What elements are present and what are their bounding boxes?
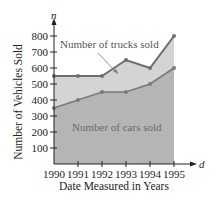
x-tick-label: 1990 [43, 168, 66, 180]
y-tick-label: 800 [32, 30, 49, 42]
x-tick-label: 1994 [139, 168, 162, 180]
data-point [76, 74, 80, 78]
x-tick-label: 1992 [91, 168, 113, 180]
data-point [172, 34, 176, 38]
data-point [148, 82, 152, 86]
data-point [172, 66, 176, 70]
trucks-annotation: Number of trucks sold [60, 38, 159, 50]
plot-areas [54, 36, 174, 164]
y-tick-label: 100 [32, 142, 49, 154]
x-tick-label: 1991 [67, 168, 89, 180]
data-point [100, 74, 104, 78]
x-tick-label: 1995 [163, 168, 186, 180]
y-axis-title: Number of Vehicles Sold [12, 44, 24, 160]
data-point [124, 58, 128, 62]
data-point [124, 90, 128, 94]
y-tick-label: 500 [32, 78, 49, 90]
cars-annotation: Number of cars sold [72, 121, 162, 133]
x-axis-arrow-icon [190, 162, 197, 167]
y-tick-label: 200 [32, 126, 49, 138]
x-tick-label: 1993 [115, 168, 138, 180]
vehicles-sold-chart: 1002003004005006007008001990199119921993… [0, 0, 218, 214]
y-tick-label: 300 [32, 110, 49, 122]
y-tick-label: 400 [32, 94, 49, 106]
y-axis-variable: n [51, 9, 57, 21]
x-axis-variable: d [199, 158, 205, 170]
y-tick-label: 700 [32, 46, 49, 58]
data-point [76, 98, 80, 102]
data-point [100, 90, 104, 94]
data-point [148, 66, 152, 70]
x-axis-title: Date Measured in Years [59, 180, 169, 192]
y-tick-label: 600 [32, 62, 49, 74]
